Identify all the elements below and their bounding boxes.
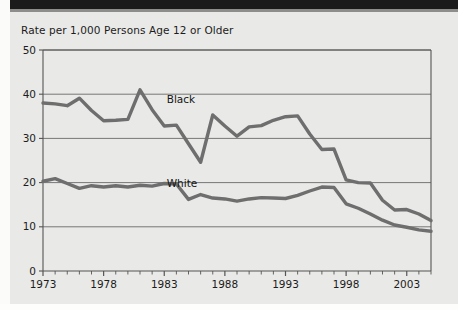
plot-background [43, 50, 431, 271]
y-tick-label-20: 20 [23, 176, 36, 188]
y-tick-label-10: 10 [23, 220, 36, 232]
x-axis-labels: 1973197819831988199319982003 [30, 278, 420, 290]
x-tick-label-1993: 1993 [272, 278, 299, 290]
y-axis-labels: 01020304050 [23, 44, 36, 277]
series-label-black: Black [167, 93, 196, 105]
line-chart-plot: 01020304050 1973197819831988199319982003… [0, 0, 458, 310]
series-label-white: White [167, 177, 198, 189]
y-tick-label-0: 0 [29, 265, 36, 277]
chart-figure: Rate per 1,000 Persons Age 12 or Older 0… [0, 0, 458, 310]
y-tick-label-30: 30 [23, 132, 36, 144]
x-tick-label-1973: 1973 [30, 278, 57, 290]
x-tick-label-1988: 1988 [212, 278, 239, 290]
x-tick-label-1978: 1978 [90, 278, 117, 290]
x-tick-label-1998: 1998 [333, 278, 360, 290]
x-tick-label-1983: 1983 [151, 278, 178, 290]
x-axis-ticks [43, 271, 431, 276]
x-tick-label-2003: 2003 [393, 278, 420, 290]
y-axis-ticks [39, 50, 43, 271]
y-tick-label-50: 50 [23, 44, 36, 56]
y-tick-label-40: 40 [23, 88, 36, 100]
